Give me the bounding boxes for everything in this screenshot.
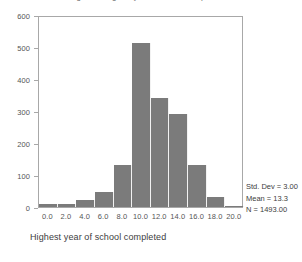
y-tick-label: 200 bbox=[17, 140, 30, 149]
std-dev-label: Std. Dev = 3.00 bbox=[246, 181, 302, 193]
x-tick-label: 18.0 bbox=[208, 212, 223, 221]
x-axis-title: Highest year of school completed bbox=[30, 232, 166, 242]
n-label: N = 1493.00 bbox=[246, 204, 302, 216]
chart-title: Histogram of highest year of school comp… bbox=[38, 0, 243, 3]
x-tick-label: 12.0 bbox=[152, 212, 167, 221]
y-tick-label: 100 bbox=[17, 172, 30, 181]
x-tick-label: 0.0 bbox=[42, 212, 53, 221]
x-tick-label: 2.0 bbox=[61, 212, 72, 221]
y-tick-label: 400 bbox=[17, 76, 30, 85]
histogram-bar bbox=[39, 204, 58, 207]
histogram-bar bbox=[169, 114, 188, 207]
x-tick-label: 20.0 bbox=[226, 212, 241, 221]
plot-area bbox=[39, 17, 242, 207]
histogram-bar bbox=[114, 165, 133, 207]
x-axis: 0.02.04.06.08.010.012.014.016.018.020.0 bbox=[38, 208, 243, 228]
x-tick-label: 4.0 bbox=[79, 212, 90, 221]
histogram-bar bbox=[225, 206, 244, 207]
histogram-figure: Histogram of highest year of school comp… bbox=[0, 0, 302, 262]
histogram-bar bbox=[151, 98, 170, 207]
y-axis: 0100200300400500600 bbox=[0, 16, 38, 208]
plot-frame bbox=[38, 16, 243, 208]
x-tick-label: 16.0 bbox=[189, 212, 204, 221]
histogram-bar bbox=[207, 197, 226, 207]
x-tick-label: 8.0 bbox=[116, 212, 127, 221]
y-tick-label: 300 bbox=[17, 108, 30, 117]
histogram-bar bbox=[58, 204, 77, 207]
statistics-annotation: Std. Dev = 3.00 Mean = 13.3 N = 1493.00 bbox=[246, 181, 302, 216]
y-tick-label: 0 bbox=[26, 204, 30, 213]
histogram-bar bbox=[188, 165, 207, 207]
x-tick-label: 6.0 bbox=[98, 212, 109, 221]
histogram-bar bbox=[132, 43, 151, 207]
histogram-bar bbox=[76, 200, 95, 207]
x-tick-label: 14.0 bbox=[170, 212, 185, 221]
x-tick-label: 10.0 bbox=[133, 212, 148, 221]
mean-label: Mean = 13.3 bbox=[246, 193, 302, 205]
y-tick-label: 600 bbox=[17, 12, 30, 21]
histogram-bar bbox=[95, 192, 114, 207]
y-tick-label: 500 bbox=[17, 44, 30, 53]
